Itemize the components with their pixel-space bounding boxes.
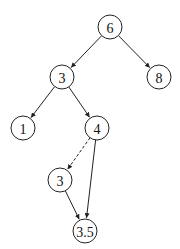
tree-node-n3: 3 (50, 65, 74, 89)
tree-node-n8: 8 (147, 65, 171, 89)
edge-n6-n8 (118, 36, 150, 68)
dashed-edge-n4-n3b (68, 138, 91, 170)
node-label: 3 (57, 174, 64, 189)
node-label: 3 (59, 71, 66, 86)
tree-node-n35: 3.5 (73, 219, 97, 243)
node-label: 8 (156, 71, 163, 86)
node-label: 6 (107, 21, 114, 36)
tree-node-n3b: 3 (48, 168, 72, 192)
node-label: 3.5 (76, 225, 94, 240)
nodes-group: 6381433.5 (11, 15, 171, 243)
tree-diagram: 6381433.5 (0, 0, 180, 249)
tree-node-n6: 6 (98, 15, 122, 39)
edge-n3b-n35 (65, 191, 79, 220)
edge-n3-n1 (31, 87, 55, 118)
edge-n4-n35 (87, 140, 96, 218)
node-label: 1 (20, 122, 27, 137)
tree-node-n4: 4 (85, 116, 109, 140)
edge-n3-n4 (69, 87, 90, 117)
node-label: 4 (94, 122, 101, 137)
tree-node-n1: 1 (11, 116, 35, 140)
edge-n6-n3 (71, 36, 102, 68)
